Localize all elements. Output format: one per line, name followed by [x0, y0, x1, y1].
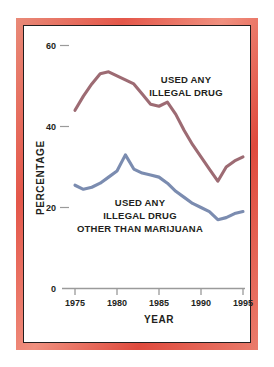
annotation-upper-line-1: USED ANY [161, 74, 212, 85]
x-tick-label-1990: 1990 [191, 298, 211, 308]
y-axis-title: PERCENTAGE [35, 140, 46, 215]
annotation-lower-line-2: ILLEGAL DRUG [103, 210, 176, 221]
x-tick-label-1985: 1985 [149, 298, 169, 308]
figure-container: 60 40 20 0 PERCENTAGE 1975 1980 1985 199… [0, 0, 274, 367]
x-tick-label-1980: 1980 [107, 298, 127, 308]
annotation-upper-line-2: ILLEGAL DRUG [149, 87, 222, 98]
y-axis-group: 60 40 20 0 [46, 41, 69, 294]
annotation-lower-line-3: OTHER THAN MARIJUANA [77, 223, 203, 234]
annotation-used-any-illegal-drug: USED ANY ILLEGAL DRUG [149, 74, 222, 98]
x-tick-label-1995: 1995 [233, 298, 253, 308]
y-tick-label-0: 0 [51, 284, 56, 294]
x-axis-group: 1975 1980 1985 1990 1995 [62, 289, 253, 309]
x-axis-title: YEAR [144, 314, 174, 325]
x-tick-label-1975: 1975 [65, 298, 85, 308]
line-chart: 60 40 20 0 PERCENTAGE 1975 1980 1985 199… [0, 0, 274, 367]
y-tick-label-60: 60 [46, 41, 56, 51]
annotation-used-any-illegal-drug-other-than-marijuana: USED ANY ILLEGAL DRUG OTHER THAN MARIJUA… [77, 197, 203, 234]
y-tick-label-20: 20 [46, 203, 56, 213]
y-tick-label-40: 40 [46, 122, 56, 132]
annotation-lower-line-1: USED ANY [115, 197, 166, 208]
